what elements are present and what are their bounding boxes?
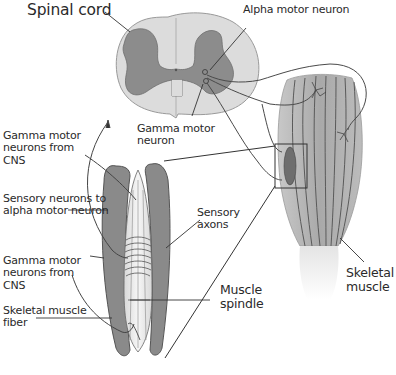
label-sensory-axons: Sensory axons	[197, 207, 240, 232]
label-alpha-motor-neuron: Alpha motor neuron	[243, 4, 349, 16]
label-muscle-spindle: Muscle spindle	[220, 283, 264, 311]
tendon	[299, 246, 338, 300]
label-gamma-motor-neurons-from-cns-top: Gamma motor neurons from CNS	[3, 130, 81, 167]
label-spinal-cord: Spinal cord	[27, 2, 111, 19]
diagram-canvas: Spinal cord Alpha motor neuron Gamma mot…	[0, 0, 396, 375]
label-sensory-neurons-to-alpha: Sensory neurons to alpha motor neuron	[3, 193, 109, 218]
label-gamma-motor-neurons-from-cns-bottom: Gamma motor neurons from CNS	[3, 255, 81, 292]
spinal-cord-cross-section	[116, 13, 259, 118]
zoom-connector-lines	[164, 146, 275, 358]
label-skeletal-muscle: Skeletal muscle	[346, 266, 394, 294]
label-skeletal-muscle-fiber: Skeletal muscle fiber	[3, 305, 86, 330]
label-gamma-motor-neuron: Gamma motor neuron	[137, 123, 215, 148]
muscle-spindle-enlarged	[72, 120, 170, 356]
